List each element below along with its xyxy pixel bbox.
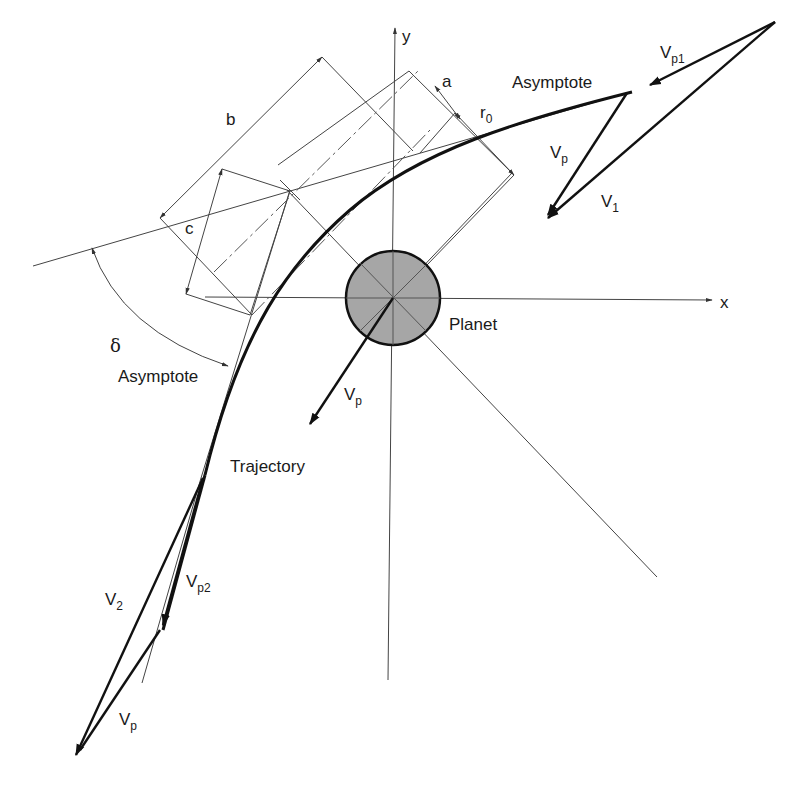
dim-c-label: c bbox=[185, 219, 194, 238]
perpendicular-line bbox=[287, 190, 657, 577]
outgoing-vector-triangle bbox=[76, 478, 203, 755]
delta-label: δ bbox=[110, 335, 121, 356]
flyby-diagram: y x a b c r0 Asymptote Asymptote δ Plane… bbox=[0, 0, 796, 790]
v1-label: V1 bbox=[601, 192, 619, 215]
x-axis-label: x bbox=[720, 293, 729, 312]
vp-top-label: Vp bbox=[550, 143, 568, 166]
y-axis-label: y bbox=[402, 27, 411, 46]
v2-label: V2 bbox=[105, 590, 123, 613]
vp-planet-label: Vp bbox=[344, 385, 362, 408]
vp-bottom-label: Vp bbox=[119, 710, 137, 733]
asymptote-lower-label: Asymptote bbox=[118, 367, 198, 386]
diagram-canvas: y x a b c r0 Asymptote Asymptote δ Plane… bbox=[0, 0, 796, 790]
asymptote-upper-label: Asymptote bbox=[512, 73, 592, 92]
planet-label: Planet bbox=[449, 315, 497, 334]
dim-b-label: b bbox=[226, 110, 235, 129]
trajectory-label: Trajectory bbox=[230, 457, 305, 476]
vp2-label: Vp2 bbox=[186, 572, 211, 595]
dim-a-label: a bbox=[442, 72, 452, 91]
r0-label: r0 bbox=[480, 103, 493, 126]
vp1-label: Vp1 bbox=[660, 43, 685, 66]
construction-box bbox=[160, 57, 514, 315]
x-axis bbox=[205, 297, 712, 300]
